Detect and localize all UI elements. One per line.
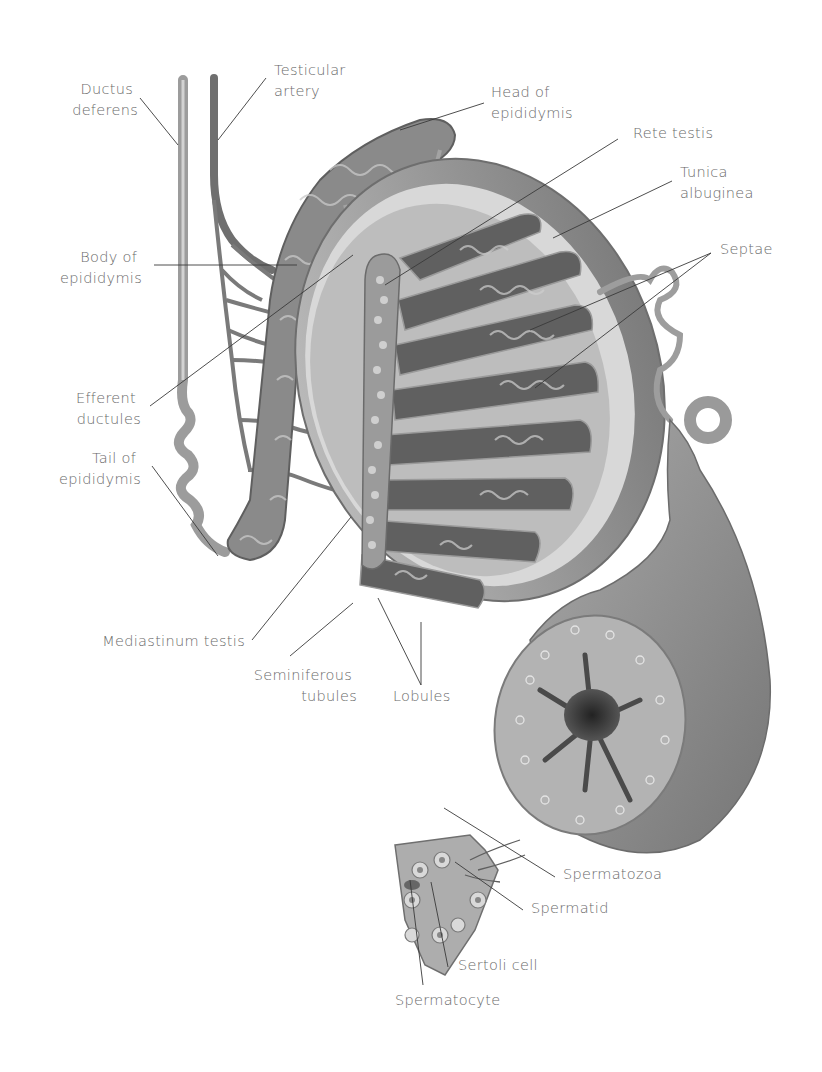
- label-body-of-epididymis: Body of epididymis: [60, 249, 142, 286]
- label-spermatocyte: Spermatocyte: [395, 992, 500, 1008]
- testis-anatomy-diagram: Ductus deferens Testicular artery Head o…: [0, 0, 822, 1072]
- label-mediastinum-testis: Mediastinum testis: [102, 633, 245, 649]
- illustration: [179, 78, 770, 975]
- label-head-of-epididymis: Head of epididymis: [491, 84, 573, 121]
- testicular-artery-shape: [214, 78, 272, 270]
- label-spermatozoa: Spermatozoa: [563, 866, 662, 882]
- ductus-deferens-shape: [179, 80, 225, 552]
- label-efferent-ductules: Efferent ductules: [76, 390, 141, 427]
- label-sertoli-cell: Sertoli cell: [458, 957, 538, 973]
- label-testicular-artery: Testicular artery: [274, 62, 351, 99]
- label-lobules: Lobules: [393, 688, 451, 704]
- label-tunica-albuginea: Tunica albuginea: [680, 164, 754, 201]
- label-tail-of-epididymis: Tail of epididymis: [59, 450, 141, 487]
- label-seminiferous-tubules: Seminiferous tubules: [254, 667, 357, 704]
- label-septae: Septae: [720, 241, 773, 257]
- label-rete-testis: Rete testis: [633, 125, 713, 141]
- label-spermatid: Spermatid: [531, 900, 609, 916]
- label-ductus-deferens: Ductus deferens: [72, 81, 138, 118]
